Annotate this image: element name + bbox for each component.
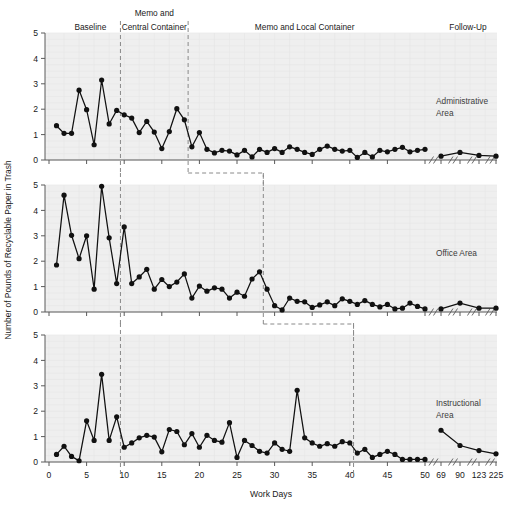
data-point (287, 144, 292, 149)
data-point (69, 233, 74, 238)
data-point (257, 147, 262, 152)
y-tick-label: 0 (33, 457, 38, 467)
data-point (61, 193, 66, 198)
data-point (264, 287, 269, 292)
data-point (407, 301, 412, 306)
data-point (114, 281, 119, 286)
grid (45, 185, 497, 312)
data-point (99, 184, 104, 189)
data-point (317, 302, 322, 307)
data-point (302, 299, 307, 304)
data-point (227, 295, 232, 300)
data-point (295, 299, 300, 304)
data-point (332, 444, 337, 449)
data-point (422, 457, 427, 462)
data-point (54, 123, 59, 128)
data-point (310, 152, 315, 157)
data-point (159, 146, 164, 151)
data-point (242, 148, 247, 153)
phase-label-memo-central-line2: Central Container (122, 22, 187, 32)
grid (45, 33, 497, 160)
data-point (219, 440, 224, 445)
data-point (385, 449, 390, 454)
data-point (204, 289, 209, 294)
panel-label-line1: Office Area (436, 248, 477, 258)
data-point (347, 148, 352, 153)
data-point (76, 256, 81, 261)
data-point (114, 108, 119, 113)
data-point (137, 274, 142, 279)
data-point (264, 150, 269, 155)
data-point (340, 439, 345, 444)
data-point (377, 148, 382, 153)
data-point (234, 152, 239, 157)
y-tick-label: 3 (33, 231, 38, 241)
phase-label-memo-local: Memo and Local Container (255, 22, 355, 32)
data-point (302, 150, 307, 155)
data-point (377, 304, 382, 309)
data-point (159, 277, 164, 282)
data-point-followup (476, 448, 481, 453)
y-tick-label: 2 (33, 256, 38, 266)
data-point (362, 298, 367, 303)
y-tick-label: 1 (33, 432, 38, 442)
data-point (174, 279, 179, 284)
data-point (54, 452, 59, 457)
data-point (242, 294, 247, 299)
y-tick-label: 0 (33, 307, 38, 317)
x-tick-label: 5 (84, 470, 89, 480)
phase-label-follow-up: Follow-Up (449, 22, 487, 32)
data-point (144, 267, 149, 272)
data-point (310, 305, 315, 310)
data-point (422, 306, 427, 311)
data-point (415, 148, 420, 153)
data-point (137, 435, 142, 440)
data-point (340, 296, 345, 301)
x-tick-label-followup: 123 (472, 470, 487, 480)
data-point (392, 306, 397, 311)
y-tick-label: 5 (33, 28, 38, 38)
data-point (122, 445, 127, 450)
y-tick-label: 4 (33, 206, 38, 216)
data-point (174, 106, 179, 111)
data-point (159, 449, 164, 454)
data-point (227, 420, 232, 425)
data-point (415, 457, 420, 462)
data-point (137, 130, 142, 135)
panel-label-line1: Instructional (436, 398, 481, 408)
data-point (61, 444, 66, 449)
data-point (317, 444, 322, 449)
data-point (129, 115, 134, 120)
data-point (189, 431, 194, 436)
phase-label-memo-central-line1: Memo and (135, 8, 175, 18)
x-tick-label-followup: 69 (436, 470, 446, 480)
data-point (212, 150, 217, 155)
data-point-followup (438, 306, 443, 311)
data-point (295, 388, 300, 393)
data-point (242, 438, 247, 443)
data-point (272, 440, 277, 445)
data-point (257, 269, 262, 274)
x-axis-title: Work Days (250, 489, 292, 499)
x-tick-label: 30 (270, 470, 280, 480)
data-point (400, 306, 405, 311)
phase-label-baseline: Baseline (74, 22, 106, 32)
data-point (69, 454, 74, 459)
data-point (92, 142, 97, 147)
data-point (227, 149, 232, 154)
data-point (280, 447, 285, 452)
data-point (99, 77, 104, 82)
data-point (392, 452, 397, 457)
x-tick-label: 25 (232, 470, 242, 480)
data-point (332, 147, 337, 152)
data-point-followup (493, 154, 498, 159)
data-point-followup (493, 451, 498, 456)
data-point (122, 224, 127, 229)
data-point (332, 303, 337, 308)
y-tick-label: 2 (33, 104, 38, 114)
y-tick-label: 5 (33, 180, 38, 190)
x-tick-label-followup: 90 (455, 470, 465, 480)
data-point (129, 281, 134, 286)
panel-label-line2: Area (436, 410, 454, 420)
x-tick-label-followup: 225 (489, 470, 504, 480)
